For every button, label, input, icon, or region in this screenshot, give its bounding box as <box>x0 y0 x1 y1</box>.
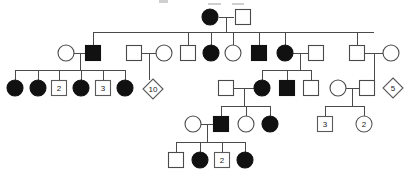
square-unaffected-V-1[interactable] <box>169 153 184 168</box>
circle-affected-IV-4[interactable] <box>262 116 278 132</box>
count-label-V-3: 2 <box>220 156 225 165</box>
circle-affected-III-9[interactable] <box>254 80 270 96</box>
square-unaffected-III-11[interactable] <box>304 81 319 96</box>
square-unaffected-II-3[interactable] <box>127 46 142 61</box>
square-affected-IV-2[interactable] <box>214 117 229 132</box>
crop-mark-2 <box>208 3 221 5</box>
square-unaffected-II-11[interactable] <box>350 46 365 61</box>
circle-unaffected-IV-1[interactable] <box>185 116 201 132</box>
circle-unaffected-II-12[interactable] <box>383 45 399 61</box>
square-unaffected-III-13[interactable] <box>360 81 375 96</box>
circle-affected-III-6[interactable] <box>117 80 133 96</box>
count-label-IV-5: 3 <box>323 120 328 129</box>
crop-mark-3 <box>232 3 244 5</box>
count-label-III-3: 2 <box>57 84 62 93</box>
circle-affected-III-2[interactable] <box>30 80 46 96</box>
square-unaffected-III-8[interactable] <box>219 81 234 96</box>
square-unaffected-I-2[interactable] <box>236 10 251 25</box>
circle-unaffected-III-12[interactable] <box>330 80 346 96</box>
count-label-III-5: 3 <box>101 84 106 93</box>
circle-affected-III-1[interactable] <box>7 80 23 96</box>
circle-affected-II-9[interactable] <box>277 45 293 61</box>
circle-affected-II-6[interactable] <box>203 45 219 61</box>
square-unaffected-II-5[interactable] <box>181 46 196 61</box>
circle-affected-I-1[interactable] <box>202 9 218 25</box>
square-affected-II-8[interactable] <box>252 46 267 61</box>
circle-unaffected-IV-3[interactable] <box>238 116 254 132</box>
circle-affected-V-4[interactable] <box>237 152 253 168</box>
circle-unaffected-II-4[interactable] <box>156 45 172 61</box>
pedigree-chart: 23105322 <box>0 0 411 176</box>
count-label-III-14: 5 <box>391 84 396 93</box>
circle-unaffected-II-1[interactable] <box>58 45 74 61</box>
pedigree-diagram: 23105322 <box>0 0 411 176</box>
circle-affected-III-4[interactable] <box>73 80 89 96</box>
square-unaffected-II-10[interactable] <box>309 46 324 61</box>
crop-mark-1 <box>159 0 168 3</box>
count-label-IV-6: 2 <box>362 120 367 129</box>
circle-unaffected-II-7[interactable] <box>225 45 241 61</box>
square-affected-II-2[interactable] <box>86 46 101 61</box>
square-affected-III-10[interactable] <box>280 81 295 96</box>
circle-affected-V-2[interactable] <box>192 152 208 168</box>
count-label-III-7: 10 <box>149 85 158 94</box>
